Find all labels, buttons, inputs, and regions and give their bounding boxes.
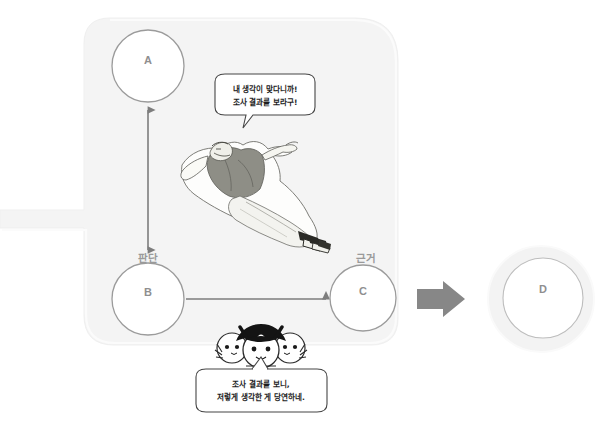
philosopher-bubble-line-1: 내 생각이 맞다니까! — [233, 84, 298, 94]
edge-c-to-d-block-arrow — [417, 281, 465, 317]
students-bubble-line-2: 저렇게 생각한 게 당연하네. — [217, 392, 305, 402]
node-a[interactable]: A — [112, 30, 184, 102]
edge-label-geungeo: 근거 — [356, 252, 376, 264]
students-speech-bubble: 조사 결과를 보니, 저렇게 생각한 게 당연하네. — [196, 357, 327, 412]
node-b-label: B — [144, 286, 152, 298]
node-d[interactable]: D — [503, 258, 583, 338]
diagram-canvas: A B C D 판단 근거 — [0, 0, 615, 431]
node-c[interactable]: C — [330, 265, 396, 331]
node-a-label: A — [144, 54, 152, 66]
edge-label-pandan: 판단 — [138, 252, 158, 264]
node-d-label: D — [539, 283, 547, 295]
node-b[interactable]: B — [112, 263, 184, 335]
node-c-label: C — [359, 285, 367, 297]
diagram-svg: A B C D 판단 근거 — [0, 0, 615, 431]
philosopher-bubble-line-2: 조사 결과를 보라구! — [233, 97, 298, 107]
students-bubble-line-1: 조사 결과를 보니, — [232, 379, 289, 389]
